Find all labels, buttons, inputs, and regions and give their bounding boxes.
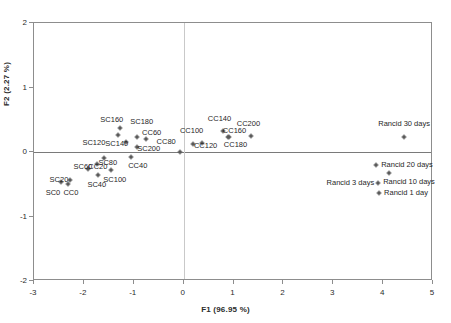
data-point-label: CC40	[128, 162, 147, 170]
y-tick-label: 2	[9, 18, 27, 27]
y-tick-label: 1	[9, 82, 27, 91]
data-point-label: SC0	[46, 189, 61, 197]
x-tick-label: 0	[180, 288, 184, 297]
data-point-label: Rancid 1 day	[384, 189, 428, 197]
zero-line-horizontal	[34, 152, 431, 153]
data-point-label: CC120	[194, 142, 217, 150]
pca-scatter-figure: SC0CC0SC20SC40SC60CC20SC80SC100SC120SC14…	[0, 0, 451, 323]
y-tick-label: 0	[9, 147, 27, 156]
y-tick-mark	[29, 280, 33, 281]
x-tick-label: 3	[330, 288, 334, 297]
x-tick-mark	[183, 280, 184, 284]
x-tick-label: 4	[380, 288, 384, 297]
y-tick-label: -2	[9, 276, 27, 285]
data-point-label: SC180	[130, 118, 153, 126]
x-tick-mark	[233, 280, 234, 284]
data-point	[403, 136, 406, 139]
x-tick-mark	[282, 280, 283, 284]
data-point-label: SC160	[100, 116, 123, 124]
y-tick-mark	[29, 151, 33, 152]
data-point	[116, 133, 119, 136]
data-point-label: CC140	[208, 115, 231, 123]
data-point	[129, 155, 132, 158]
data-point	[109, 169, 112, 172]
x-tick-label: 1	[230, 288, 234, 297]
data-point	[378, 191, 381, 194]
data-point-label: SC20	[50, 176, 69, 184]
data-point-label: Rancid 10 days	[383, 178, 435, 186]
zero-line-vertical	[184, 23, 185, 279]
x-tick-label: -2	[79, 288, 86, 297]
data-point	[250, 134, 253, 137]
x-tick-mark	[432, 280, 433, 284]
data-point	[144, 138, 147, 141]
data-point	[377, 181, 380, 184]
plot-area: SC0CC0SC20SC40SC60CC20SC80SC100SC120SC14…	[33, 22, 432, 280]
x-tick-mark	[332, 280, 333, 284]
x-tick-label: -3	[29, 288, 36, 297]
data-point-label: CC0	[63, 189, 78, 197]
y-axis-title: F2 (2.27 %)	[2, 62, 11, 106]
data-point	[375, 163, 378, 166]
data-point	[96, 173, 99, 176]
data-point	[136, 136, 139, 139]
x-tick-mark	[33, 280, 34, 284]
y-tick-mark	[29, 87, 33, 88]
x-tick-label: 2	[280, 288, 284, 297]
data-point-label: CC100	[180, 127, 203, 135]
data-point-label: CC80	[157, 138, 176, 146]
data-point-label: SC80	[98, 159, 117, 167]
data-point-label: CC200	[237, 120, 260, 128]
data-point-label: CC180	[224, 141, 247, 149]
x-tick-mark	[133, 280, 134, 284]
data-point-label: CC60	[142, 129, 161, 137]
x-tick-label: -1	[129, 288, 136, 297]
data-point-label: Rancid 30 days	[378, 120, 430, 128]
data-point-label: SC120	[82, 139, 105, 147]
data-point-label: Rancid 3 days	[327, 179, 375, 187]
x-tick-mark	[83, 280, 84, 284]
x-tick-label: 5	[430, 288, 434, 297]
data-point	[118, 127, 121, 130]
y-tick-mark	[29, 22, 33, 23]
data-point-label: SC100	[103, 176, 126, 184]
x-axis-title: F1 (96.95 %)	[0, 305, 451, 314]
y-tick-label: -1	[9, 211, 27, 220]
y-tick-mark	[29, 216, 33, 217]
data-point	[227, 136, 230, 139]
data-point	[388, 172, 391, 175]
x-tick-mark	[382, 280, 383, 284]
data-point	[68, 178, 71, 181]
data-point-label: SC140	[105, 140, 128, 148]
data-point-label: Rancid 20 days	[381, 161, 433, 169]
data-point	[178, 151, 181, 154]
